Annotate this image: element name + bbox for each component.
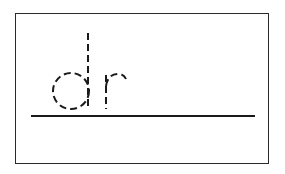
letter-d-trace [53,33,89,109]
letter-r-trace [106,74,126,109]
baseline-rule [31,115,255,117]
tracing-letters [0,0,285,174]
